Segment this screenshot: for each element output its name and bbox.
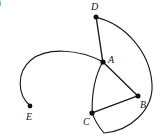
vertex-dot-C [89, 110, 94, 115]
segment-B-to-C [92, 96, 137, 113]
vertex-dot-A [100, 59, 105, 64]
geometry-figure: ) D A B C E [0, 0, 166, 139]
arc-D-to-C [92, 17, 152, 133]
vertex-dot-D [94, 15, 99, 20]
point-label-E: E [26, 112, 32, 122]
vertex-dot-E [28, 104, 33, 109]
point-label-D: D [91, 2, 98, 12]
point-label-C: C [83, 117, 90, 127]
segment-A-to-B [103, 62, 138, 96]
point-label-A: A [108, 55, 114, 65]
curve-A-to-C [92, 62, 103, 113]
arc-E-to-A [20, 51, 103, 106]
segment-D-to-A [96, 17, 103, 61]
point-label-B: B [140, 100, 146, 110]
vertex-dot-B [136, 94, 141, 99]
